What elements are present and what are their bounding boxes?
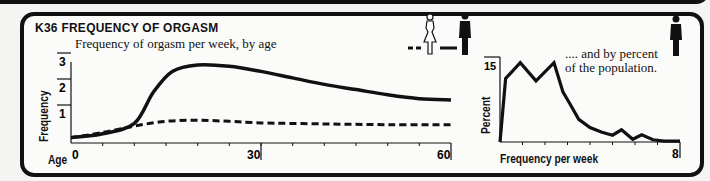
left-chart: 12303060 — [57, 53, 451, 162]
male-figure-solid-icon-right — [670, 16, 682, 57]
right-y-tick-label: 15 — [484, 60, 496, 72]
left-y-tick-label: 2 — [59, 81, 66, 95]
left-y-tick-label: 3 — [59, 55, 66, 69]
right-chart: 158 — [484, 57, 680, 161]
left-y-tick-label: 1 — [59, 107, 66, 121]
left-x-tick-label: 0 — [72, 148, 79, 162]
right-x-tick-label: 8 — [672, 147, 679, 161]
male-figure-solid-icon — [459, 13, 471, 56]
right-series-male — [500, 63, 680, 142]
legend-female — [408, 14, 457, 54]
left-x-tick-label: 30 — [247, 148, 261, 162]
left-x-tick-label: 60 — [437, 148, 451, 162]
female-figure-outline-icon — [424, 14, 436, 54]
